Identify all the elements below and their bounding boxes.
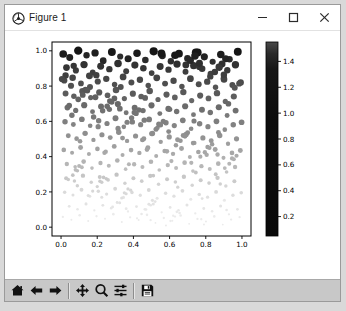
scatter-point	[70, 151, 74, 155]
window-title: Figure 1	[29, 13, 67, 23]
scatter-point	[173, 60, 180, 67]
scatter-point	[183, 69, 189, 75]
scatter-point	[129, 189, 132, 192]
scatter-point	[71, 173, 75, 177]
scatter-point	[140, 137, 145, 142]
scatter-point	[93, 209, 95, 211]
scatter-point	[189, 161, 193, 165]
scatter-point	[165, 224, 167, 226]
scatter-point	[216, 161, 221, 166]
scatter-point	[232, 61, 239, 68]
scatter-point	[155, 97, 160, 102]
scatter-point	[207, 146, 211, 150]
scatter-point	[239, 119, 245, 125]
scatter-point	[120, 74, 127, 81]
scatter-point	[90, 109, 95, 114]
save-button[interactable]	[138, 281, 157, 300]
scatter-point	[206, 96, 212, 102]
scatter-point	[222, 127, 227, 132]
scatter-point	[105, 192, 108, 195]
scatter-point	[112, 144, 117, 149]
scatter-point	[129, 216, 131, 218]
scatter-point	[174, 109, 179, 114]
scatter-point	[104, 218, 106, 220]
scatter-point	[167, 134, 172, 139]
scatter-point	[213, 85, 218, 90]
scatter-point	[102, 151, 106, 155]
scatter-point	[234, 136, 239, 141]
minimize-button[interactable]	[247, 5, 278, 30]
scatter-point	[59, 76, 65, 82]
tick-label: 0.0	[36, 223, 48, 232]
scatter-point	[125, 139, 129, 143]
scatter-point	[169, 220, 171, 222]
scatter-point	[68, 205, 71, 208]
scatter-point	[117, 106, 123, 112]
scatter-point	[191, 141, 196, 146]
scatter-point	[87, 152, 91, 156]
scatter-point	[196, 81, 202, 87]
tick-label: 1.4	[283, 57, 295, 66]
scatter-point	[121, 221, 123, 223]
scatter-point	[139, 194, 142, 197]
scatter-point	[66, 54, 73, 61]
tick-label: 0.8	[36, 82, 48, 91]
colorbar-gradient	[266, 42, 278, 236]
figure-canvas[interactable]: 0.00.20.40.60.81.0 0.00.20.40.60.81.0 0.…	[5, 31, 340, 279]
scatter-point	[78, 145, 83, 150]
colorbar-ticks: 0.20.40.60.81.01.21.4	[278, 57, 295, 221]
configure-subplots-button[interactable]	[111, 281, 130, 300]
scatter-point	[234, 154, 238, 158]
scatter-point	[118, 84, 124, 90]
scatter-point	[95, 78, 101, 84]
scatter-point	[197, 93, 203, 99]
scatter-point	[191, 118, 196, 123]
scatter-point	[205, 124, 210, 129]
scatter-point	[125, 207, 128, 210]
scatter-point	[227, 162, 231, 166]
scatter-point	[108, 135, 113, 140]
scatter-point	[230, 151, 235, 156]
scatter-point	[162, 81, 168, 87]
scatter-point	[80, 165, 84, 169]
scatter-point	[124, 110, 129, 115]
scatter-point	[191, 112, 196, 117]
scatter-point	[158, 122, 163, 127]
forward-button[interactable]	[46, 281, 65, 300]
scatter-point	[138, 122, 143, 127]
window-controls	[247, 5, 340, 30]
scatter-point	[68, 83, 74, 89]
scatter-point	[114, 172, 118, 176]
scatter-point	[223, 166, 227, 170]
scatter-point	[76, 208, 79, 211]
back-button[interactable]	[27, 281, 46, 300]
home-button[interactable]	[8, 281, 27, 300]
scatter-point	[198, 193, 201, 196]
zoom-button[interactable]	[92, 281, 111, 300]
scatter-point	[96, 89, 102, 95]
tick-label: 0.6	[283, 160, 295, 169]
scatter-point	[233, 165, 237, 169]
scatter-point	[178, 212, 181, 215]
scatter-point	[142, 95, 148, 101]
scatter-point	[91, 138, 95, 142]
scatter-point	[236, 208, 239, 211]
tick-label: 0.6	[36, 117, 48, 126]
scatter-point	[135, 205, 138, 208]
scatter-point	[199, 107, 205, 113]
scatter-plot[interactable]: 0.00.20.40.60.81.0 0.00.20.40.60.81.0 0.…	[5, 31, 340, 279]
scatter-point	[232, 85, 238, 91]
scatter-point	[196, 150, 201, 155]
scatter-point	[213, 147, 218, 152]
close-button[interactable]	[309, 5, 340, 30]
scatter-point	[232, 157, 236, 161]
scatter-point	[130, 91, 136, 97]
scatter-point	[205, 221, 207, 223]
scatter-point	[210, 142, 215, 147]
pan-button[interactable]	[73, 281, 92, 300]
scatter-point	[140, 213, 143, 216]
scatter-point	[149, 159, 154, 164]
scatter-point	[86, 72, 93, 79]
scatter-point	[149, 131, 154, 136]
maximize-button[interactable]	[278, 5, 309, 30]
